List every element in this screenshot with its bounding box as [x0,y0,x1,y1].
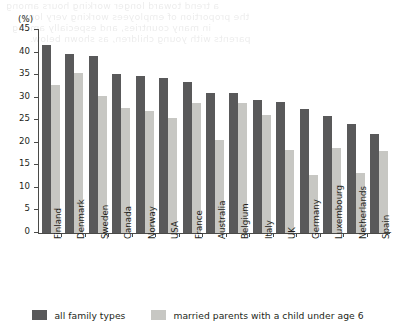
y-axis-tick-35: 35 [34,74,39,75]
x-axis-category-label-spain: Spain [382,215,391,239]
y-axis-tick-40: 40 [34,52,39,53]
legend-item-married-parents: married parents with a child under age 6 [151,310,363,321]
x-axis-category-label-germany: Germany [312,199,321,239]
bar-group [136,30,154,233]
x-axis-category-label-italy: Italy [265,220,274,239]
bar [136,76,145,233]
y-axis-tick-label-20: 20 [19,136,30,147]
legend-swatch-married-parents [151,310,166,320]
y-axis-line [38,30,39,233]
bleed-line-2: the proportion of employees working very… [22,11,249,22]
bar-group [89,30,107,233]
x-axis-category-label-australia: Australia [218,201,227,239]
bar [89,56,98,233]
x-axis-category-label-norway: Norway [148,206,157,239]
x-axis-category-label-canada: Canada [124,206,133,239]
x-axis-category-label-netherlands: Netherlands [359,186,368,239]
bar [65,54,74,233]
bar [323,116,332,233]
x-axis-category-label-sweden: Sweden [101,205,110,239]
y-axis-tick-label-5: 5 [25,203,30,214]
bar-group [42,30,60,233]
y-axis-tick-25: 25 [34,119,39,120]
bar [253,100,262,233]
x-axis-category-label-denmark: Denmark [77,199,86,239]
y-axis-tick-label-15: 15 [19,158,30,169]
x-axis-category-label-belgium: Belgium [241,203,250,239]
y-axis-tick-label-10: 10 [19,181,30,192]
bar-group [370,30,388,233]
legend-label-all-family-types: all family types [54,310,125,321]
legend-swatch-all-family-types [32,310,47,320]
y-axis-tick-label-40: 40 [19,46,30,57]
y-axis-tick-30: 30 [34,97,39,98]
y-axis-tick-15: 15 [34,164,39,165]
x-axis-category-label-usa: USA [171,221,180,239]
bar-group [112,30,130,233]
y-axis-tick-10: 10 [34,187,39,188]
bar [206,93,215,233]
bleed-line-1: a trend toward longer working hours amon… [6,0,219,11]
bar [370,134,379,233]
y-axis-tick-0: 0 [34,232,39,233]
bar [112,74,121,233]
bar [183,82,192,233]
bar [229,93,238,233]
y-axis-tick-label-25: 25 [19,113,30,124]
chart-legend: all family types married parents with a … [0,306,396,324]
bar [262,115,271,233]
bar [42,45,51,233]
y-axis-tick-5: 5 [34,209,39,210]
bar-group [159,30,177,233]
y-axis-tick-20: 20 [34,142,39,143]
y-axis-tick-label-30: 30 [19,91,30,102]
y-axis-tick-label-35: 35 [19,68,30,79]
legend-item-all-family-types: all family types [32,310,125,321]
bar [300,109,309,233]
bar-group [253,30,271,233]
x-axis-category-label-uk: UK [288,227,297,239]
bar [276,102,285,233]
legend-label-married-parents: married parents with a child under age 6 [173,310,363,321]
x-axis-category-label-france: France [195,210,204,239]
y-axis-tick-label-0: 0 [25,226,30,237]
bar [168,118,177,233]
x-axis-category-label-luxembourg: Luxembourg [335,185,344,239]
chart-figure: a trend toward longer working hours amon… [0,0,396,331]
bar [347,124,356,233]
y-axis-tick-45: 45 [34,29,39,30]
bar [285,150,294,233]
bar-group [276,30,294,233]
x-axis-category-label-finland: Finland [54,208,63,239]
bar-group [183,30,201,233]
y-axis-tick-label-45: 45 [19,23,30,34]
bar [159,78,168,233]
